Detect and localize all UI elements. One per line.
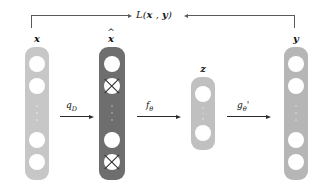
loss-label-prefix: L( [136, 9, 147, 20]
arrow-corruption-head [89, 115, 94, 119]
arrow-label-encoder-sub: θ [149, 105, 153, 113]
arrow-decoder [227, 116, 267, 117]
arrow-encoder [137, 116, 177, 117]
hat-accent-icon: ^ [107, 27, 115, 37]
caption-latent: z [190, 63, 216, 74]
node-input-2 [29, 78, 45, 94]
caption-input: x [24, 33, 50, 44]
arrow-label-encoder: fθ [146, 100, 153, 113]
caption-output: y [283, 33, 309, 44]
node-latent-1 [195, 86, 211, 102]
loss-label-suffix: ) [168, 9, 172, 20]
loss-label: L(x , y) [136, 9, 172, 20]
node-output-4 [288, 154, 304, 170]
ellipsis-output [295, 105, 297, 121]
block-corrupted [99, 47, 125, 180]
figure-canvas: L(x , y) x qD ^x fθ [0, 0, 323, 195]
node-output-1 [288, 56, 304, 72]
arrow-decoder-head [266, 115, 271, 119]
caption-corrupted: ^x [98, 33, 124, 44]
arrow-label-corruption-sub: D [72, 105, 77, 113]
caption-output-text: y [293, 33, 299, 44]
node-corrupted-3 [104, 132, 120, 148]
loss-bracket-right-stem [294, 15, 295, 28]
block-input [25, 47, 49, 180]
caption-latent-text: z [200, 63, 206, 74]
node-corrupted-1 [104, 56, 120, 72]
loss-arrow-left-head [128, 14, 132, 18]
node-corrupted-2-dropped [104, 78, 120, 94]
node-input-1 [29, 56, 45, 72]
block-output [284, 47, 308, 180]
caption-input-text: x [34, 33, 40, 44]
block-latent [191, 77, 215, 150]
arrow-label-corruption: qD [66, 100, 77, 113]
loss-bracket-left-stem [31, 15, 32, 28]
ellipsis-latent [202, 107, 204, 120]
ellipsis-input [36, 105, 38, 121]
loss-arrow-right-head [184, 14, 188, 18]
node-latent-2 [195, 125, 211, 141]
node-input-3 [29, 132, 45, 148]
ellipsis-corrupted [111, 105, 113, 121]
arrow-label-decoder-prime: ' [247, 100, 249, 110]
caption-corrupted-hatgroup: ^x [108, 33, 114, 44]
node-input-4 [29, 154, 45, 170]
loss-label-sep: , [153, 9, 163, 20]
node-output-3 [288, 132, 304, 148]
loss-bracket-left-arm [31, 15, 130, 16]
arrow-encoder-head [176, 115, 181, 119]
arrow-label-decoder: gθ' [237, 100, 249, 113]
node-corrupted-4-dropped [104, 154, 120, 170]
node-output-2 [288, 78, 304, 94]
loss-bracket-right-arm [186, 15, 294, 16]
arrow-corruption [60, 116, 90, 117]
